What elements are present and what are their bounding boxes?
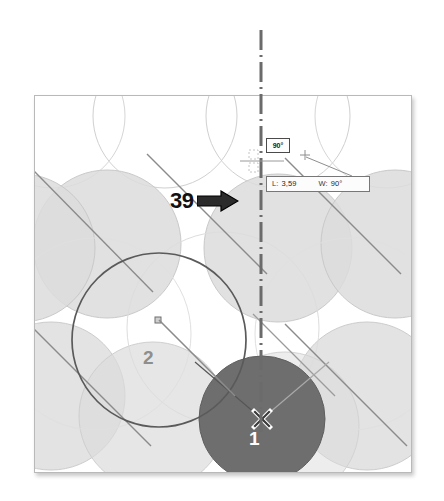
drawing-geometry bbox=[35, 96, 411, 472]
length-value: 3,59 bbox=[281, 180, 296, 188]
selected-part-circle bbox=[199, 356, 325, 472]
angle-input-badge[interactable]: 90° bbox=[266, 138, 290, 153]
callout-number: 39 bbox=[170, 190, 193, 212]
angle-label: W: bbox=[318, 180, 327, 188]
angle-badge-value: 90° bbox=[273, 142, 284, 149]
arrow-right-icon bbox=[197, 190, 239, 212]
angle-value: 90° bbox=[331, 180, 343, 188]
length-field[interactable]: L: 3,59 bbox=[272, 180, 296, 188]
step-callout-39: 39 bbox=[170, 190, 239, 212]
cad-drawing-viewport: 39 90° L: 3,59 W: 90° 1 2 bbox=[0, 0, 444, 501]
dimension-tooltip[interactable]: L: 3,59 W: 90° bbox=[266, 176, 370, 192]
angle-field[interactable]: W: 90° bbox=[318, 180, 342, 188]
length-label: L: bbox=[272, 180, 278, 188]
drawing-sheet[interactable] bbox=[34, 95, 412, 473]
